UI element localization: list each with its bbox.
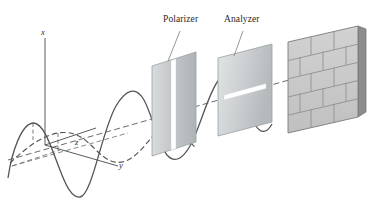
wall-face (288, 26, 358, 133)
polarizer-label: Polarizer (163, 14, 198, 24)
brick-wall-screen (288, 26, 366, 133)
polarizer-slit (171, 59, 176, 150)
coordinate-axes (45, 38, 118, 166)
y-axis (45, 145, 118, 166)
y-axis-label: y (119, 160, 123, 170)
z-axis-label: z (75, 137, 78, 147)
polarizer-leader-line (168, 31, 180, 61)
polarizer-panel[interactable] (152, 52, 196, 156)
x-axis-label: x (41, 27, 45, 37)
figure-canvas (0, 0, 380, 201)
analyzer-panel[interactable] (218, 44, 272, 136)
polarization-figure: Polarizer Analyzer x y z (0, 0, 380, 201)
wall-edge (358, 26, 366, 117)
analyzer-label: Analyzer (224, 14, 260, 24)
